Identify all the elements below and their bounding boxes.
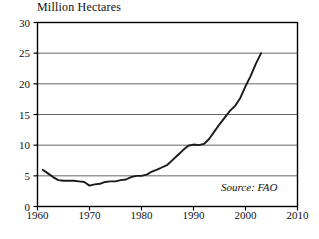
y-tick-label: 5 [0, 170, 30, 182]
x-tick-label: 1960 [27, 209, 49, 221]
x-tick-label: 1980 [131, 209, 153, 221]
y-tick-label: 15 [0, 109, 30, 121]
source-annotation: Source: FAO [221, 181, 278, 193]
x-tick-label: 1990 [183, 209, 205, 221]
plot-area [0, 0, 319, 239]
y-tick-label: 30 [0, 17, 30, 29]
y-tick-label: 0 [0, 201, 30, 213]
data-line-series-area [43, 53, 261, 185]
x-tick-label: 2010 [287, 209, 309, 221]
y-tick-label: 20 [0, 78, 30, 90]
x-tick-label: 2000 [235, 209, 257, 221]
y-tick-label: 25 [0, 47, 30, 59]
y-tick-label: 10 [0, 139, 30, 151]
x-tick-label: 1970 [79, 209, 101, 221]
chart-container: Million Hectares 051015202530 1960197019… [0, 0, 319, 239]
